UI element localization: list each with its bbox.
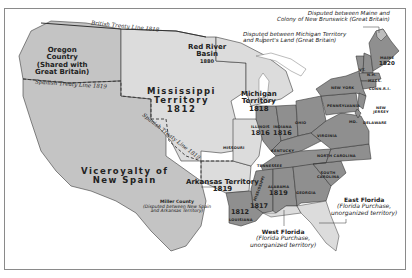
map-frame: British Treaty Line 1818 Spanish Treaty …	[4, 8, 406, 270]
missouri-label: MISSOURI	[223, 147, 245, 151]
michigan-dispute-callout: Disputed between Michigan Territory and …	[243, 32, 346, 44]
red-river-basin-label: Red River Basin 1880	[188, 44, 226, 64]
new-hampshire-label: N.H.	[367, 74, 377, 78]
maryland-label: MD.	[349, 121, 358, 125]
maine-label: MAINE 1820	[379, 57, 395, 67]
louisiana-year-label: 1812	[231, 209, 249, 216]
ohio-label: OHIO	[295, 122, 306, 126]
south-carolina-label: SOUTH CAROLINA	[317, 172, 339, 180]
state-new-york	[316, 71, 366, 96]
virginia-label: VIRGINIA	[317, 135, 337, 139]
mississippi-territory-label: Mississippi Territory 1812	[147, 87, 216, 114]
mississippi-state-year-label: 1817	[250, 203, 268, 210]
massachusetts-label: MASS.	[368, 80, 382, 84]
pennsylvania-label: PENNSYLVANIA	[327, 105, 360, 109]
vermont-label: VT.	[359, 69, 366, 73]
viceroyalty-new-spain-label: Viceroyalty of New Spain	[81, 167, 168, 185]
illinois-label: ILLINOIS 1816	[251, 126, 270, 137]
louisiana-label: LOUISIANA	[229, 219, 253, 223]
east-florida-label: East Florida (Florida Purchase, unorgani…	[331, 197, 397, 216]
kentucky-label: KENTUCKY	[271, 150, 294, 154]
rhode-island-label: R.I.	[383, 88, 391, 92]
north-carolina-label: NORTH CAROLINA	[317, 155, 356, 159]
miller-county-label: Miller County (Disputed between New Spai…	[143, 200, 211, 214]
indiana-label: INDIANA 1816	[273, 126, 292, 137]
oregon-country-label: Oregon Country (Shared with Great Britai…	[35, 47, 89, 76]
georgia-label: GEORGIA	[296, 192, 316, 196]
new-york-label: NEW YORK	[331, 87, 354, 91]
connecticut-label: CONN.	[369, 88, 383, 92]
west-florida-label: West Florida (Florida Purchase, unorgani…	[250, 229, 316, 248]
arkansas-territory-label: Arkansas Territory 1819	[186, 179, 259, 194]
michigan-territory-label: Michigan Territory 1818	[241, 91, 277, 113]
maine-dispute-callout: Disputed between Maine and Colony of New…	[277, 11, 390, 23]
tennessee-label: TENNESSEE	[257, 165, 282, 169]
alabama-label: ALABAMA 1819	[268, 186, 289, 197]
new-jersey-label: NEW JERSEY	[371, 107, 391, 115]
delaware-label: DELAWARE	[363, 122, 387, 126]
